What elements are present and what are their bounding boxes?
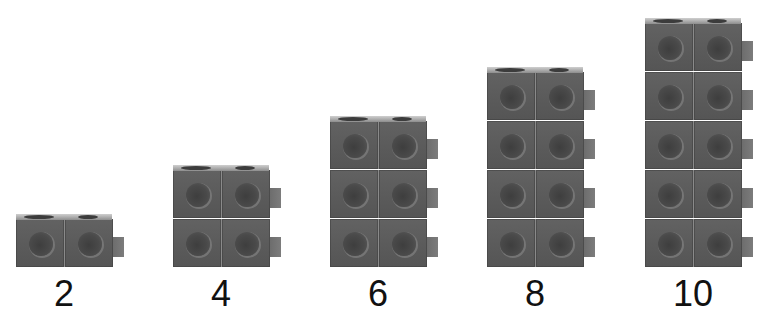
cube-top-rim xyxy=(64,214,112,220)
cube xyxy=(221,219,270,267)
cube-peg xyxy=(742,90,753,110)
cube-hole-icon xyxy=(707,232,731,256)
cube xyxy=(645,121,693,169)
cube-hole-icon xyxy=(707,134,731,158)
cube-top-rim xyxy=(378,116,426,122)
cube xyxy=(487,121,535,169)
cube-peg xyxy=(584,188,595,208)
cube-top-rim xyxy=(487,67,535,73)
cube-peg xyxy=(427,139,438,159)
cube-top-rim xyxy=(645,18,693,24)
cube xyxy=(330,219,378,267)
cube-top-rim xyxy=(16,214,64,220)
cube-peg xyxy=(742,237,753,257)
cube-hole-icon xyxy=(549,232,573,256)
cube-hole-icon xyxy=(186,183,210,207)
cube-peg xyxy=(270,188,281,208)
cube-hole-icon xyxy=(235,232,259,256)
cube-hole-icon xyxy=(549,85,573,109)
cube-peg xyxy=(584,237,595,257)
count-label: 6 xyxy=(328,276,428,312)
cube-top-rim xyxy=(173,165,221,171)
cube-peg xyxy=(427,188,438,208)
cube-peg xyxy=(584,90,595,110)
cube xyxy=(693,23,742,71)
cube xyxy=(330,170,378,218)
cube xyxy=(535,121,584,169)
cube xyxy=(645,170,693,218)
cube-top-rim xyxy=(535,67,583,73)
cube-hole-icon xyxy=(392,134,416,158)
cube-hole-icon xyxy=(658,232,682,256)
cube xyxy=(64,219,113,267)
cube-hole-icon xyxy=(500,134,524,158)
cube-hole-icon xyxy=(707,183,731,207)
cube xyxy=(645,72,693,120)
cube-hole-icon xyxy=(343,183,367,207)
cube xyxy=(487,170,535,218)
cube-hole-icon xyxy=(658,134,682,158)
cube xyxy=(221,170,270,218)
cube-hole-icon xyxy=(235,183,259,207)
cube xyxy=(487,219,535,267)
cube-hole-icon xyxy=(500,183,524,207)
cube xyxy=(693,72,742,120)
cube-hole-icon xyxy=(658,85,682,109)
cube xyxy=(378,121,427,169)
cube xyxy=(378,170,427,218)
cube-peg xyxy=(113,237,124,257)
count-label: 10 xyxy=(643,276,743,312)
cube-hole-icon xyxy=(78,232,102,256)
count-label: 2 xyxy=(14,276,114,312)
cube-hole-icon xyxy=(29,232,53,256)
cube xyxy=(330,121,378,169)
cube-hole-icon xyxy=(707,85,731,109)
cube-hole-icon xyxy=(658,183,682,207)
cube xyxy=(173,219,221,267)
cube xyxy=(173,170,221,218)
cube-hole-icon xyxy=(500,232,524,256)
cube-top-rim xyxy=(330,116,378,122)
cube-top-rim xyxy=(221,165,269,171)
cube-hole-icon xyxy=(392,232,416,256)
cube xyxy=(16,219,64,267)
cube-peg xyxy=(427,237,438,257)
count-label: 8 xyxy=(485,276,585,312)
cube-hole-icon xyxy=(343,232,367,256)
cube-hole-icon xyxy=(549,183,573,207)
cube xyxy=(487,72,535,120)
cube xyxy=(645,219,693,267)
cube xyxy=(535,170,584,218)
count-label: 4 xyxy=(171,276,271,312)
cube xyxy=(535,219,584,267)
cube xyxy=(378,219,427,267)
cube-peg xyxy=(270,237,281,257)
cube-peg xyxy=(742,139,753,159)
cube-top-rim xyxy=(693,18,741,24)
cube-hole-icon xyxy=(500,85,524,109)
cube xyxy=(693,219,742,267)
cube xyxy=(535,72,584,120)
cube xyxy=(693,170,742,218)
cube-hole-icon xyxy=(658,36,682,60)
cube-peg xyxy=(742,188,753,208)
cube-peg xyxy=(584,139,595,159)
cube-hole-icon xyxy=(707,36,731,60)
cube-hole-icon xyxy=(549,134,573,158)
cube xyxy=(693,121,742,169)
cube-peg xyxy=(742,41,753,61)
cube-hole-icon xyxy=(392,183,416,207)
cube-hole-icon xyxy=(186,232,210,256)
cube-hole-icon xyxy=(343,134,367,158)
cube xyxy=(645,23,693,71)
